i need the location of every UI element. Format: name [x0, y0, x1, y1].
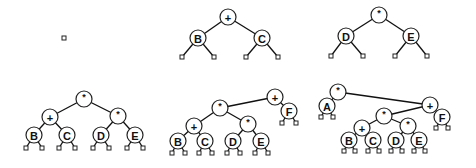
node-label: C	[258, 33, 266, 45]
node-label: *	[246, 117, 250, 127]
null-leaf-square	[24, 146, 28, 150]
tree-node-times: *	[240, 116, 256, 132]
null-leaf-square	[319, 115, 323, 119]
node-label: E	[407, 31, 414, 43]
tree-node-e: E	[403, 28, 419, 44]
null-leaf-square	[342, 149, 346, 153]
tree-node-e: E	[127, 127, 143, 143]
node-label: C	[201, 136, 209, 148]
null-leaf-square	[244, 55, 248, 59]
tree-node-plus: +	[422, 97, 438, 113]
node-label: *	[377, 8, 381, 18]
null-leaf-square	[225, 151, 229, 155]
tree-node-f: F	[434, 109, 450, 125]
node-label: E	[257, 136, 264, 148]
node-label: *	[82, 92, 86, 102]
tree-node-d: D	[338, 28, 354, 44]
null-leaf-square	[212, 55, 216, 59]
null-leaf-square	[91, 146, 95, 150]
node-label: +	[359, 123, 365, 135]
tree-node-times: *	[212, 100, 228, 116]
node-label: +	[191, 121, 197, 133]
node-label: D	[342, 31, 350, 43]
node-label: E	[131, 130, 138, 142]
tree-node-e: E	[253, 133, 269, 149]
null-leaf-square	[423, 149, 427, 153]
node-label: F	[439, 112, 446, 124]
tree-node-plus: +	[186, 118, 202, 134]
node-label: *	[406, 119, 410, 129]
tree-node-times: *	[76, 91, 92, 107]
null-leaf-square	[183, 151, 187, 155]
tree-node-times: *	[376, 108, 392, 124]
tree-edge	[338, 92, 430, 105]
node-label: *	[382, 109, 386, 119]
tree-node-times: *	[110, 108, 126, 124]
node-label: E	[415, 135, 422, 147]
tree-node-b: B	[341, 132, 357, 148]
null-leaf-square	[40, 146, 44, 150]
null-leaf-square	[361, 54, 365, 58]
node-label: C	[63, 130, 71, 142]
tree-node-c: C	[59, 127, 75, 143]
null-leaf-square	[62, 36, 66, 40]
node-label: +	[225, 12, 231, 24]
edges-layer	[26, 15, 448, 153]
node-label: +	[427, 100, 433, 112]
null-leaf-square	[412, 149, 416, 153]
node-label: B	[174, 136, 182, 148]
null-leaf-square	[425, 54, 429, 58]
tree-node-times: *	[400, 118, 416, 134]
node-label: *	[116, 109, 120, 119]
node-label: D	[97, 130, 105, 142]
node-label: *	[336, 85, 340, 95]
node-label: +	[47, 112, 53, 124]
nodes-layer: +BC*DE*+*BCDE+*F+*BCDE*A+F*+*BCDE	[26, 7, 450, 149]
null-leaf-square	[276, 55, 280, 59]
tree-node-c: C	[365, 132, 381, 148]
null-leaf-square	[393, 54, 397, 58]
tree-node-b: B	[190, 30, 206, 46]
node-label: B	[345, 135, 353, 147]
tree-node-c: C	[197, 133, 213, 149]
null-leaf-square	[366, 149, 370, 153]
null-leaf-square	[353, 149, 357, 153]
null-leaf-square	[294, 121, 298, 125]
tree-node-d: D	[93, 127, 109, 143]
tree-node-times: *	[371, 7, 387, 23]
null-leaf-square	[331, 115, 335, 119]
tree-node-c: C	[254, 30, 270, 46]
tree-node-a: A	[319, 98, 335, 114]
tree-node-b: B	[170, 133, 186, 149]
tree-node-plus: +	[42, 109, 58, 125]
null-leaf-square	[238, 151, 242, 155]
tree-node-plus: +	[220, 9, 236, 25]
node-label: D	[229, 136, 237, 148]
null-leaf-square	[329, 54, 333, 58]
tree-node-f: F	[281, 103, 297, 119]
null-leaf-square	[400, 149, 404, 153]
node-label: B	[194, 33, 202, 45]
tree-node-plus: +	[267, 89, 283, 105]
null-leaf-square	[377, 149, 381, 153]
null-leaf-square	[197, 151, 201, 155]
tree-node-e: E	[411, 132, 427, 148]
null-leaf-square	[434, 126, 438, 130]
tree-node-b: B	[26, 127, 42, 143]
expression-tree-diagram: +BC*DE*+*BCDE+*F+*BCDE*A+F*+*BCDE	[0, 0, 476, 168]
null-leaf-square	[210, 151, 214, 155]
null-leaf-square	[446, 126, 450, 130]
tree-node-d: D	[388, 132, 404, 148]
null-leaf-square	[170, 151, 174, 155]
tree-node-d: D	[225, 133, 241, 149]
null-leaf-square	[253, 151, 257, 155]
node-label: *	[218, 101, 222, 111]
null-leaf-square	[141, 146, 145, 150]
null-leaf-square	[266, 151, 270, 155]
node-label: F	[286, 106, 293, 118]
node-label: A	[323, 101, 331, 113]
null-leaf-square	[280, 121, 284, 125]
node-label: B	[30, 130, 38, 142]
null-leaf-square	[107, 146, 111, 150]
tree-node-times: *	[330, 84, 346, 100]
